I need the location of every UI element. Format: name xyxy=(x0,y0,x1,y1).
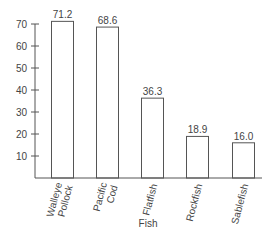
x-axis-title: Fish xyxy=(139,218,158,229)
y-tick-label: 30 xyxy=(16,107,28,118)
bar-chart: 10203040506070 71.268.636.318.916.0 Wall… xyxy=(0,0,272,242)
bar xyxy=(142,98,164,178)
bar-value-label: 16.0 xyxy=(234,131,254,142)
bar-value-label: 18.9 xyxy=(188,124,208,135)
bar xyxy=(97,27,119,178)
y-tick-label: 40 xyxy=(16,85,28,96)
bar xyxy=(187,136,209,178)
x-category-label: Sablefish xyxy=(229,183,250,226)
x-category-label: WalleyePollock xyxy=(44,180,75,221)
y-tick-label: 70 xyxy=(16,19,28,30)
bar xyxy=(52,21,74,178)
bars: 71.268.636.318.916.0 xyxy=(52,9,255,178)
svg-text:Flatfish: Flatfish xyxy=(140,183,159,217)
x-category-label: Flatfish xyxy=(140,183,159,217)
x-category-label: Rockfish xyxy=(184,183,205,223)
svg-text:Rockfish: Rockfish xyxy=(184,183,205,223)
x-category-label: PacificCod xyxy=(91,181,120,215)
y-axis: 10203040506070 xyxy=(16,19,39,179)
y-tick-label: 50 xyxy=(16,63,28,74)
bar-value-label: 68.6 xyxy=(98,15,118,26)
y-tick-label: 60 xyxy=(16,41,28,52)
y-tick-label: 10 xyxy=(16,151,28,162)
bar-value-label: 36.3 xyxy=(143,86,163,97)
bar xyxy=(233,143,255,178)
y-tick-label: 20 xyxy=(16,129,28,140)
svg-text:Sablefish: Sablefish xyxy=(229,183,250,226)
bar-value-label: 71.2 xyxy=(53,9,73,20)
